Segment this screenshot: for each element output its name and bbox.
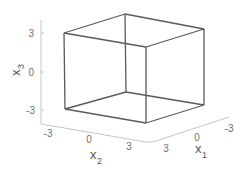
x2-axis-label: x 2	[90, 147, 102, 166]
edge	[64, 14, 125, 33]
svg-text:x: x	[8, 69, 23, 76]
svg-text:2: 2	[97, 156, 102, 166]
edge	[64, 33, 65, 109]
x1-axis-line	[146, 117, 229, 142]
cube-wireframe	[64, 14, 204, 123]
x3-tick-label: 0	[28, 67, 34, 78]
edge	[65, 92, 126, 109]
x2-tick-label: -3	[44, 128, 53, 139]
edge	[64, 33, 146, 47]
edge	[146, 29, 204, 47]
svg-text:3: 3	[16, 64, 26, 69]
svg-text:1: 1	[202, 150, 207, 160]
edge	[146, 105, 204, 123]
x1-tick-label: 3	[163, 143, 169, 154]
x2-tick-label: 0	[86, 134, 92, 145]
edge	[65, 109, 146, 123]
x1-axis-label: x 1	[195, 141, 207, 160]
edge	[126, 92, 204, 105]
x2-tick-label: 3	[126, 141, 132, 152]
edge	[125, 14, 204, 29]
axes	[41, 20, 229, 142]
x3-tick-label: -3	[26, 105, 35, 116]
x3-axis-label: x 3	[8, 64, 26, 76]
x3-tick-label: 3	[28, 28, 34, 39]
svg-text:x: x	[90, 147, 97, 162]
svg-text:x: x	[195, 141, 202, 156]
x1-tick-label: -3	[225, 123, 234, 134]
plot-canvas: 3 0 -3 x 3 -3 0 3 x 2 3 0 -3 x 1	[0, 0, 245, 174]
edge	[125, 14, 126, 92]
x2-axis-line	[41, 124, 146, 142]
